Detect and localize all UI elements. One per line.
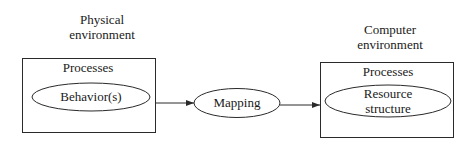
computer-processes-title: Processes — [338, 64, 438, 79]
computer-environment-line2: environment — [340, 37, 440, 52]
resource-structure-label: Resource structure — [338, 86, 438, 116]
physical-environment-line1: Physical — [52, 12, 152, 27]
physical-environment-label: Physical environment — [52, 12, 152, 42]
mapping-label: Mapping — [187, 95, 287, 110]
physical-processes-title: Processes — [38, 60, 138, 75]
behaviors-label: Behavior(s) — [41, 89, 141, 104]
resource-structure-line2: structure — [338, 101, 438, 116]
computer-environment-line1: Computer — [340, 22, 440, 37]
computer-environment-label: Computer environment — [340, 22, 440, 52]
resource-structure-line1: Resource — [338, 86, 438, 101]
physical-environment-line2: environment — [52, 27, 152, 42]
